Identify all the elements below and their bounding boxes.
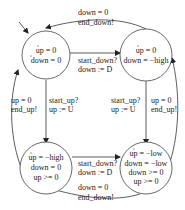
state-s4: up = −low down = −low down >= 0 up >= 0 (120, 142, 172, 194)
state-s4-line-3: down >= 0 (129, 168, 164, 177)
label-s4-s3-sync: end_down! (78, 193, 114, 202)
state-s4-line-2: down = −low (125, 159, 168, 168)
label-s2-s1-sync: end_down! (78, 18, 114, 27)
state-s4-line-4: up >= 0 (133, 177, 158, 186)
label-s2-s4-sync: start_up? (111, 96, 141, 105)
state-diagram: down = 0 end_down! start_down? down := D… (0, 0, 185, 210)
label-s1-s3-reset: up := U (49, 105, 74, 114)
initial-arrow (19, 22, 28, 33)
state-s3-line-2: down = 0 (31, 163, 61, 172)
state-s3: up = −high down = 0 up >= 0 (20, 142, 72, 194)
label-s4-s3-guard: down = 0 (78, 183, 108, 192)
label-s3-s4-sync: start_down? (78, 159, 118, 168)
label-s4-s2-guard: up = 0 (151, 96, 172, 105)
state-s2-line-2: down = −high (123, 56, 168, 65)
state-s3-line-1: up = −high (28, 153, 63, 162)
state-s1-line-1: up = 0 (36, 46, 57, 55)
state-s2-line-1: up = 0 (136, 46, 157, 55)
label-s4-s2-sync: end_up! (151, 105, 177, 114)
state-s4-line-1: up = −low (129, 149, 162, 158)
label-s1-s2-reset: down := D (78, 65, 113, 74)
label-s2-s4-reset: up := U (111, 105, 136, 114)
label-s2-s1-guard: down = 0 (78, 8, 108, 17)
state-s1: up = 0 down = 0 (22, 31, 70, 79)
label-s1-s2-sync: start_down? (78, 56, 118, 65)
state-s3-line-3: up >= 0 (33, 173, 58, 182)
label-s1-s3-sync: start_up? (49, 96, 79, 105)
state-s1-line-2: down = 0 (31, 56, 61, 65)
label-s3-s4-reset: down := D (78, 168, 113, 177)
state-s2: up = 0 down = −high (120, 29, 172, 81)
label-s3-s1-sync: end_up! (11, 105, 37, 114)
label-s3-s1-guard: up = 0 (11, 96, 32, 105)
edge-s3-s1 (12, 70, 22, 170)
